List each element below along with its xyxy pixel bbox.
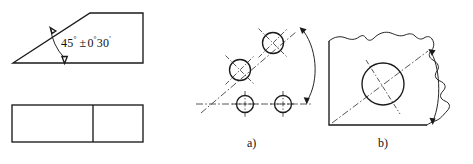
top-break-line	[329, 32, 432, 41]
part-outline-left-bottom	[329, 41, 427, 125]
angular-dimension-arc-b	[430, 50, 439, 121]
inclined-hole-axis-centerline	[332, 51, 428, 123]
diagram-b-caption: b)	[378, 136, 388, 151]
hole-circle	[362, 63, 404, 105]
hole-transverse-centerline	[366, 60, 400, 114]
technical-drawing-page: 45°±0°30′ a)	[0, 0, 473, 164]
diagram-b	[0, 0, 473, 164]
